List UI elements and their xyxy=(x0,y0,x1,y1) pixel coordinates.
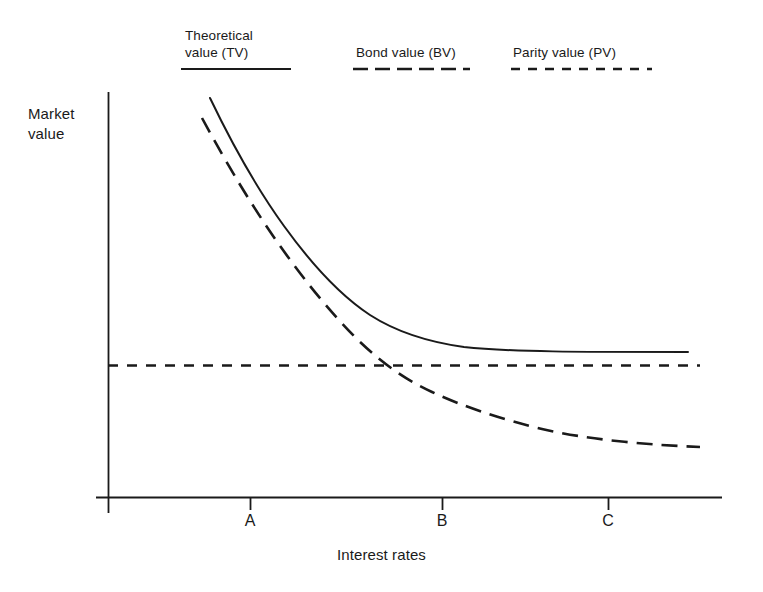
x-tick-label-a: A xyxy=(235,512,265,530)
legend-label-parity-value: Parity value (PV) xyxy=(513,44,616,61)
chart-plot-area xyxy=(0,0,763,592)
series-line-bond-value xyxy=(202,118,700,447)
x-tick-label-b: B xyxy=(427,512,457,530)
legend-label-bond-value: Bond value (BV) xyxy=(356,44,456,61)
x-axis-title: Interest rates xyxy=(0,546,763,563)
legend-label-theoretical-value: Theoretical value (TV) xyxy=(185,27,253,61)
chart-figure: Theoretical value (TV) Bond value (BV) P… xyxy=(0,0,763,592)
y-axis-title: Market value xyxy=(28,104,74,144)
x-tick-label-c: C xyxy=(593,512,623,530)
series-line-theoretical-value xyxy=(210,98,688,352)
